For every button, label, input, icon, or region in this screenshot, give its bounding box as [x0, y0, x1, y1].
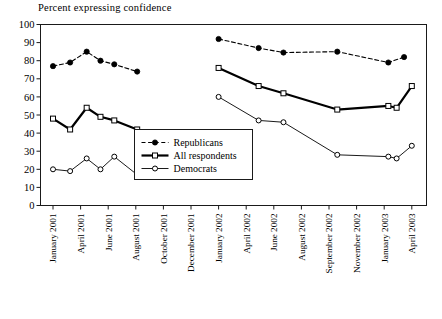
- line-chart-plot: 0102030405060708090100 January 2001April…: [0, 0, 442, 319]
- y-tick-label: 100: [19, 19, 35, 30]
- data-point-marker: [112, 154, 117, 159]
- data-point-marker: [281, 91, 286, 96]
- legend-marker-sample: [152, 140, 157, 145]
- data-point-marker: [335, 107, 340, 112]
- y-tick-label: 10: [24, 182, 35, 193]
- data-point-marker: [112, 62, 117, 67]
- x-tick-label: January 2001: [48, 213, 58, 263]
- x-tick-label: November 2002: [352, 213, 362, 273]
- x-tick-label: June 2001: [104, 213, 114, 251]
- legend-item-label: Democrats: [174, 163, 217, 174]
- data-point-marker: [394, 156, 399, 161]
- x-tick-label: August 2002: [297, 213, 307, 261]
- y-tick-label: 0: [29, 200, 34, 211]
- data-point-marker: [84, 105, 89, 110]
- data-point-marker: [409, 143, 414, 148]
- data-point-marker: [216, 36, 221, 41]
- y-tick-label: 40: [24, 128, 35, 139]
- x-tick-label: April 2003: [407, 213, 417, 253]
- x-tick-label: January 2002: [214, 213, 224, 263]
- x-tick-label: April 2001: [76, 213, 86, 253]
- y-tick-label: 80: [24, 55, 35, 66]
- data-point-marker: [386, 103, 391, 108]
- legend-marker-sample: [153, 166, 158, 171]
- data-point-marker: [84, 49, 89, 54]
- data-point-marker: [335, 152, 340, 157]
- data-point-marker: [386, 60, 391, 65]
- data-point-marker: [98, 114, 103, 119]
- y-tick-label: 20: [24, 164, 35, 175]
- data-point-marker: [281, 50, 286, 55]
- x-tick-label: June 2002: [269, 213, 279, 251]
- data-point-marker: [51, 116, 56, 121]
- chart-figure: Percent expressing confidence 0102030405…: [0, 0, 442, 319]
- y-tick-label: 50: [24, 110, 35, 121]
- data-point-marker: [112, 118, 117, 123]
- data-point-marker: [98, 167, 103, 172]
- data-point-marker: [84, 156, 89, 161]
- data-point-marker: [51, 167, 56, 172]
- x-tick-label: April 2002: [242, 213, 252, 253]
- x-tick-label: January 2003: [380, 213, 390, 263]
- data-point-marker: [98, 58, 103, 63]
- data-point-marker: [68, 169, 73, 174]
- y-tick-label: 30: [24, 146, 35, 157]
- data-point-marker: [335, 49, 340, 54]
- y-axis: 0102030405060708090100: [19, 19, 41, 211]
- x-tick-label: September 2002: [324, 213, 334, 273]
- legend-item-label: Republicans: [174, 137, 224, 148]
- x-tick-label: August 2001: [131, 213, 141, 261]
- x-tick-label: December 2001: [186, 213, 196, 272]
- x-axis: January 2001April 2001June 2001August 20…: [48, 206, 417, 274]
- data-point-marker: [135, 69, 140, 74]
- data-point-marker: [386, 154, 391, 159]
- y-tick-label: 70: [24, 73, 35, 84]
- data-point-marker: [256, 118, 261, 123]
- data-point-marker: [394, 105, 399, 110]
- data-point-marker: [216, 94, 221, 99]
- data-point-marker: [256, 84, 261, 89]
- data-point-marker: [68, 60, 73, 65]
- data-point-marker: [216, 65, 221, 70]
- data-point-marker: [68, 127, 73, 132]
- data-point-marker: [281, 120, 286, 125]
- chart-legend[interactable]: RepublicansAll respondentsDemocrats: [135, 130, 253, 180]
- x-tick-label: October 2001: [159, 213, 169, 264]
- data-point-marker: [409, 84, 414, 89]
- y-tick-label: 90: [24, 37, 35, 48]
- data-point-marker: [256, 45, 261, 50]
- data-point-marker: [50, 64, 55, 69]
- legend-item-label: All respondents: [174, 150, 237, 161]
- legend-marker-sample: [153, 153, 158, 158]
- y-tick-label: 60: [24, 92, 35, 103]
- data-point-marker: [401, 54, 406, 59]
